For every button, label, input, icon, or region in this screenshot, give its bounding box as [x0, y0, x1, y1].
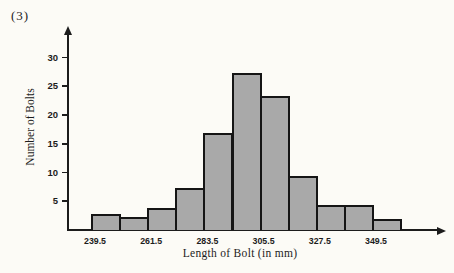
histogram-bar: [175, 188, 205, 230]
y-axis-title: Number of Bolts: [24, 72, 36, 182]
x-axis-title: Length of Bolt (in mm): [150, 247, 330, 259]
y-tick-mark: [62, 143, 68, 145]
x-tick-label: 283.5: [187, 236, 227, 246]
histogram-bar: [147, 208, 177, 230]
histogram-bar: [372, 219, 402, 230]
histogram-bar: [232, 73, 262, 230]
histogram-bar: [316, 205, 346, 230]
y-tick-mark: [62, 172, 68, 174]
y-axis-arrow-icon: [64, 26, 72, 35]
x-tick-label: 349.5: [356, 236, 396, 246]
x-axis-arrow-icon: [437, 227, 446, 235]
y-tick-mark: [62, 85, 68, 87]
y-tick-mark: [62, 57, 68, 59]
y-tick-label: 15: [34, 138, 58, 150]
histogram-bar: [91, 214, 121, 230]
x-tick-label: 239.5: [75, 236, 115, 246]
histogram-bar: [260, 96, 290, 230]
y-tick-label: 30: [34, 52, 58, 64]
x-tick-label: 327.5: [300, 236, 340, 246]
histogram-bar: [203, 133, 233, 230]
y-tick-label: 10: [34, 167, 58, 179]
histogram-bar: [344, 205, 374, 230]
y-tick-label: 25: [34, 80, 58, 92]
y-tick-mark: [62, 200, 68, 202]
y-tick-label: 5: [34, 195, 58, 207]
histogram-figure: (3) 51015202530 239.5261.5283.5305.5327.…: [0, 0, 454, 273]
x-tick-label: 305.5: [244, 236, 284, 246]
x-tick-label: 261.5: [131, 236, 171, 246]
histogram-bar: [119, 217, 149, 231]
y-tick-label: 20: [34, 109, 58, 121]
histogram-bar: [288, 176, 318, 230]
y-tick-mark: [62, 114, 68, 116]
figure-number-label: (3): [11, 8, 29, 24]
